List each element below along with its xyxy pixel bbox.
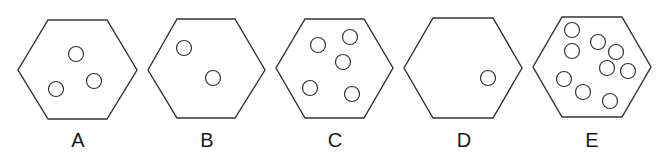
circle-dot [311,38,326,53]
circle-dot [177,41,192,56]
circle-dot [87,74,102,89]
circle-dot [481,71,496,86]
circle-dot [69,47,84,62]
hexagon-shape [18,20,137,119]
circle-dot [336,55,351,70]
circle-dot [603,94,618,109]
hexagon-shape [404,18,522,118]
panel-label-b: B [187,128,227,152]
circle-dot [345,87,360,102]
circle-dot [303,81,318,96]
circle-dot [565,44,580,59]
panel-label-a: A [58,128,98,152]
circle-dot [206,71,221,86]
circle-dot [609,45,624,60]
circle-dot [621,64,636,79]
circle-dot [600,61,615,76]
circle-dot [49,82,64,97]
circle-dot [576,85,591,100]
panel-d [404,18,522,118]
circle-dot [591,35,606,50]
panel-e [533,17,651,117]
hexagon-shape [148,19,265,118]
panel-label-c: C [315,128,355,152]
circle-dot [557,72,572,87]
panel-c [276,19,393,118]
panel-label-d: D [444,128,484,152]
panel-b [148,19,265,118]
panel-label-e: E [572,128,612,152]
panel-a [18,20,137,119]
circle-dot [343,30,358,45]
circle-dot [565,23,580,38]
hexagon-shape [276,19,393,118]
